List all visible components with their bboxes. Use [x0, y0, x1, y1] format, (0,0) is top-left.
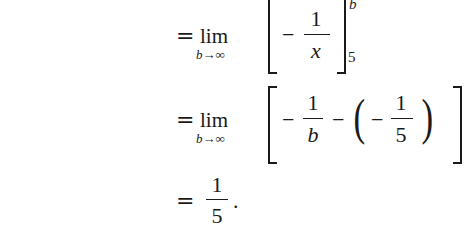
- lim-operator: lim: [200, 26, 228, 47]
- fraction-denominator: b: [302, 124, 324, 146]
- minus-sign: −: [371, 109, 383, 131]
- evaluation-lower-limit: 5: [348, 50, 356, 65]
- minus-sign: −: [332, 109, 344, 131]
- period: .: [233, 190, 239, 212]
- left-bracket: [268, 0, 277, 74]
- fraction-bar: [303, 118, 323, 119]
- fraction-bar: [391, 118, 413, 119]
- lim-subscript: b→∞: [196, 48, 225, 61]
- evaluation-upper-limit: b: [349, 0, 357, 12]
- fraction-numerator: 1: [302, 8, 330, 30]
- fraction-denominator: 5: [205, 205, 229, 227]
- fraction-numerator: 1: [389, 92, 413, 114]
- fraction-denominator: x: [302, 40, 330, 62]
- fraction-numerator: 1: [302, 92, 324, 114]
- equals-sign: =: [176, 25, 194, 47]
- minus-sign: −: [282, 24, 294, 46]
- fraction-bar: [206, 199, 228, 200]
- open-parenthesis: (: [353, 92, 365, 142]
- lim-subscript: b→∞: [196, 132, 225, 145]
- fraction-bar: [304, 34, 330, 35]
- close-parenthesis: ): [421, 92, 433, 142]
- fraction-numerator: 1: [205, 174, 229, 196]
- right-bracket: [453, 86, 462, 164]
- left-bracket: [268, 86, 277, 164]
- fraction-denominator: 5: [389, 124, 413, 146]
- minus-sign: −: [282, 109, 294, 131]
- equals-sign: =: [176, 190, 194, 212]
- right-bracket: [337, 0, 346, 74]
- lim-operator: lim: [200, 110, 228, 131]
- equals-sign: =: [176, 109, 194, 131]
